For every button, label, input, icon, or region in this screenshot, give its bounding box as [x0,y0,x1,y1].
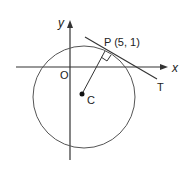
y-axis-label: y [57,16,65,30]
circle-tangent-diagram: x y O C P (5, 1) T [0,0,193,169]
origin-label: O [60,69,69,81]
y-axis-arrow-icon [67,20,73,28]
circle [33,46,135,148]
x-axis-label: x [171,61,179,75]
tangent-label: T [157,81,164,93]
point-p-label: P (5, 1) [104,36,140,48]
x-axis-arrow-icon [160,64,168,70]
center-point [80,92,85,97]
center-label: C [87,94,95,106]
